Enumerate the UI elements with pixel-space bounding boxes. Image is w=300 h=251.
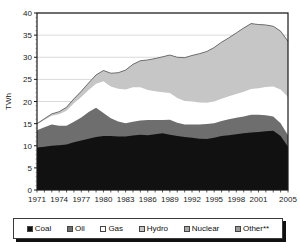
x-tick-label: 1998 [227, 195, 245, 204]
legend-item-label: Gas [108, 225, 123, 233]
x-tick-label: 1980 [95, 195, 113, 204]
legend-item[interactable]: Coal [27, 225, 51, 233]
y-tick-label: 20 [23, 98, 32, 107]
x-tick-label: 1971 [28, 195, 46, 204]
chart-canvas: 0510152025303540 19711974197719801983198… [0, 0, 300, 210]
x-tick-label: 1977 [72, 195, 90, 204]
legend-item[interactable]: Other** [235, 225, 269, 233]
legend-swatch-icon [235, 226, 241, 232]
legend-swatch-icon [139, 226, 145, 232]
y-tick-label: 35 [23, 31, 32, 40]
legend-item-label: Other** [243, 225, 269, 233]
legend-item[interactable]: Nuclear [184, 225, 220, 233]
y-axis-title-text: TWh [4, 93, 13, 110]
legend-item[interactable]: Oil [67, 225, 85, 233]
y-tick-label: 40 [23, 9, 32, 18]
plot-area-container: 0510152025303540 19711974197719801983198… [0, 0, 300, 210]
y-axis-title: TWh [4, 93, 13, 110]
legend-swatch-icon [100, 226, 106, 232]
legend-swatch-icon [184, 226, 190, 232]
legend-swatch-icon [27, 226, 33, 232]
x-tick-label: 1974 [50, 195, 68, 204]
y-tick-label: 15 [23, 120, 32, 129]
series-areas-group [37, 24, 288, 190]
legend-item-label: Hydro [147, 225, 168, 233]
y-axis-ticks [34, 13, 37, 190]
legend-item[interactable]: Gas [100, 225, 123, 233]
legend-item[interactable]: Hydro [139, 225, 168, 233]
x-tick-label: 1995 [205, 195, 223, 204]
y-tick-label: 5 [28, 164, 33, 173]
y-tick-label: 30 [23, 53, 32, 62]
y-axis-tick-labels: 0510152025303540 [23, 9, 32, 195]
x-tick-label: 1989 [161, 195, 179, 204]
legend-swatch-icon [67, 226, 73, 232]
legend-item-label: Coal [35, 225, 51, 233]
legend-item-label: Oil [75, 225, 85, 233]
chart-legend: CoalOilGasHydroNuclearOther** [13, 218, 283, 239]
x-tick-label: 1986 [139, 195, 157, 204]
x-tick-label: 1992 [183, 195, 201, 204]
x-tick-label: 2001 [250, 195, 268, 204]
stacked-area-chart: 0510152025303540 19711974197719801983198… [0, 0, 300, 251]
y-tick-label: 0 [28, 186, 33, 195]
y-tick-label: 10 [23, 142, 32, 151]
legend-item-label: Nuclear [192, 225, 220, 233]
x-axis-tick-labels: 1971197419771980198319861989199219951998… [28, 195, 297, 204]
y-tick-label: 25 [23, 75, 32, 84]
x-tick-label: 2005 [279, 195, 297, 204]
x-tick-label: 1983 [117, 195, 135, 204]
